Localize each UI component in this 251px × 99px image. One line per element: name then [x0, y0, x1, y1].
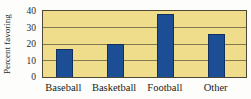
y-tick-30: 30 [0, 23, 38, 33]
x-axis-category-labels: BaseballBasketballFootballOther [0, 81, 251, 97]
bar-other [208, 34, 225, 77]
x-label-other: Other [176, 81, 251, 94]
plot-area [42, 10, 247, 78]
bar-basketball [107, 44, 124, 77]
bar-football [157, 14, 174, 77]
y-tick-40: 40 [0, 6, 38, 16]
bar-chart-figure: Percent favoring 010203040 BaseballBaske… [0, 0, 251, 99]
gridline-30 [43, 27, 246, 28]
y-tick-20: 20 [0, 39, 38, 49]
y-tick-10: 10 [0, 56, 38, 66]
bar-baseball [56, 49, 73, 77]
